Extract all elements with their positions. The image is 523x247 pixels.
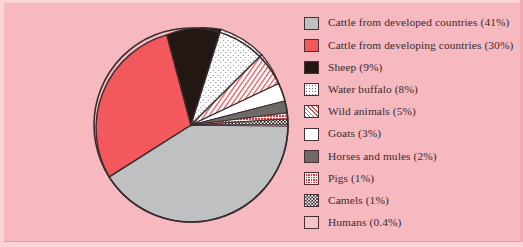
legend-item: Cattle from developed countries (41%) — [300, 12, 520, 34]
legend-item: Sheep (9%) — [300, 56, 520, 78]
legend-item: Cattle from developing countries (30%) — [300, 34, 520, 56]
legend-item-label: Goats (3%) — [328, 128, 381, 139]
legend-item-label: Water buffalo (8%) — [328, 84, 418, 95]
page-frame-left — [0, 0, 4, 247]
figure-page: Cattle from developed countries (41%) Ca… — [0, 0, 523, 247]
legend-item: Humans (0.4%) — [300, 212, 520, 234]
legend-item-label: Wild animals (5%) — [328, 106, 416, 117]
legend-swatch-pale-pink-icon — [304, 216, 319, 229]
legend-item: Horses and mules (2%) — [300, 145, 520, 167]
chart-legend: Cattle from developed countries (41%) Ca… — [300, 12, 520, 234]
page-frame-bottom — [0, 242, 523, 247]
legend-swatch-solid-gray-icon — [304, 17, 319, 30]
legend-item: Goats (3%) — [300, 123, 520, 145]
legend-item-label: Pigs (1%) — [328, 173, 374, 184]
legend-item-label: Cattle from developed countries (41%) — [328, 17, 509, 28]
page-frame-rule — [4, 241, 519, 242]
legend-item: Water buffalo (8%) — [300, 79, 520, 101]
pie-chart-svg — [92, 24, 292, 226]
legend-swatch-solid-black-icon — [304, 61, 319, 74]
legend-swatch-diagonal-hatch-icon — [304, 105, 319, 118]
legend-swatch-solid-white-icon — [304, 128, 319, 141]
legend-item-label: Horses and mules (2%) — [328, 151, 437, 162]
legend-item-label: Camels (1%) — [328, 195, 389, 206]
legend-swatch-dotted-white-icon — [304, 83, 319, 96]
legend-swatch-solid-red-icon — [304, 39, 319, 52]
legend-swatch-checkerboard-icon — [304, 194, 319, 207]
legend-item-label: Humans (0.4%) — [328, 217, 401, 228]
legend-item: Camels (1%) — [300, 190, 520, 212]
legend-swatch-solid-dark-gray-icon — [304, 150, 319, 163]
legend-item-label: Sheep (9%) — [328, 62, 382, 73]
legend-swatch-red-grid-icon — [304, 172, 319, 185]
legend-item-label: Cattle from developing countries (30%) — [328, 40, 513, 51]
legend-item: Pigs (1%) — [300, 167, 520, 189]
page-frame-top — [0, 0, 523, 3]
pie-chart — [92, 24, 292, 226]
legend-item: Wild animals (5%) — [300, 101, 520, 123]
